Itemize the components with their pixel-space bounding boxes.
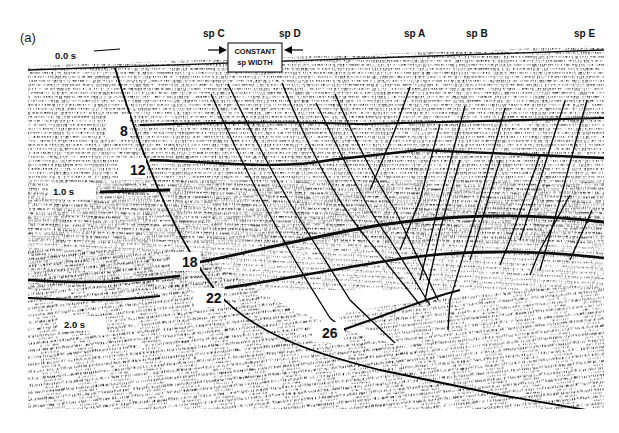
constant-box-line2: sp WIDTH [237, 58, 272, 67]
panel-label: (a) [20, 30, 36, 45]
shotpoint-label-a: sp A [404, 28, 425, 39]
shotpoint-label-c: sp C [203, 28, 225, 39]
arrow-right-icon [208, 46, 227, 54]
shotpoint-label-b: sp B [466, 28, 488, 39]
horizon-label-22: 22 [194, 288, 224, 307]
time-label-2s: 2.0 s [64, 319, 85, 330]
horizon-number: 26 [322, 325, 338, 341]
time-marker-0s: 0.0 s [55, 49, 120, 61]
arrow-left-icon [284, 46, 303, 54]
horizon-label-26: 26 [312, 322, 344, 342]
shotpoint-label-e: sp E [574, 28, 595, 39]
horizon-number: 22 [206, 290, 222, 306]
seismic-section-figure: (a) [0, 0, 619, 433]
time-marker-2s: 2.0 s [58, 316, 106, 331]
horizon-number: 18 [182, 254, 198, 270]
horizon-number: 8 [120, 123, 128, 139]
horizon-number: 12 [130, 162, 146, 178]
shotpoint-label-d: sp D [279, 28, 301, 39]
horizon-label-12: 12 [118, 158, 146, 178]
horizon-label-18: 18 [170, 252, 200, 271]
time-label-1s: 1.0 s [53, 186, 74, 197]
time-label-0s: 0.0 s [55, 50, 76, 61]
constant-box-line1: CONSTANT [234, 47, 276, 56]
seismic-data [28, 44, 604, 413]
time-marker-1s: 1.0 s [48, 183, 96, 199]
horizon-label-8: 8 [106, 114, 130, 139]
